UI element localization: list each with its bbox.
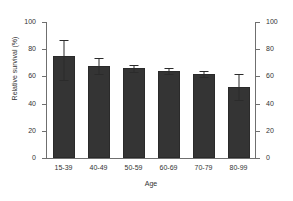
y-tick-label-right: 60 [266, 72, 274, 79]
error-cap-lower [199, 77, 208, 78]
error-cap-upper [129, 65, 138, 66]
bar-group [117, 22, 151, 158]
error-cap-lower [129, 72, 138, 73]
bar-group [47, 22, 81, 158]
y-tick-label-right: 80 [266, 45, 274, 52]
bar [88, 66, 110, 158]
y-tick-left: 20 [42, 131, 46, 132]
error-bar [133, 65, 134, 72]
bar [193, 74, 215, 158]
y-tick-label-left: 20 [28, 127, 36, 134]
y-tick-right: 100 [256, 22, 260, 23]
error-cap-upper [164, 68, 173, 69]
y-tick-label-right: 100 [266, 18, 278, 25]
error-cap-upper [94, 58, 103, 59]
y-tick-left: 60 [42, 76, 46, 77]
y-tick-right: 0 [256, 158, 260, 159]
error-cap-lower [94, 74, 103, 75]
error-bar [63, 40, 64, 81]
x-axis-title: Age [46, 180, 256, 187]
error-cap-upper [199, 71, 208, 72]
bar-group [222, 22, 256, 158]
error-cap-lower [234, 100, 243, 101]
y-tick-label-right: 20 [266, 127, 274, 134]
error-cap-upper [59, 40, 68, 41]
bar [158, 71, 180, 158]
y-tick-left: 100 [42, 22, 46, 23]
y-tick-label-left: 40 [28, 100, 36, 107]
y-tick-label-right: 40 [266, 100, 274, 107]
y-tick-right: 20 [256, 131, 260, 132]
x-axis-line [46, 158, 256, 159]
error-cap-lower [164, 74, 173, 75]
y-axis-title: Relative survival (%) [10, 0, 20, 136]
bar-group [152, 22, 186, 158]
bar-group [187, 22, 221, 158]
x-tick-label: 80-99 [211, 164, 267, 172]
plot-area: 020406080100 020406080100 15-3940-4950-5… [46, 22, 256, 158]
error-bar [98, 58, 99, 74]
error-bar [238, 74, 239, 101]
error-cap-lower [59, 80, 68, 81]
y-tick-label-right: 0 [266, 154, 270, 161]
relative-survival-bar-chart: Relative survival (%) 020406080100 02040… [0, 0, 293, 201]
y-tick-right: 80 [256, 49, 260, 50]
y-tick-left: 0 [42, 158, 46, 159]
y-tick-label-left: 80 [28, 45, 36, 52]
bar-group [82, 22, 116, 158]
y-tick-label-left: 0 [32, 154, 36, 161]
y-tick-left: 80 [42, 49, 46, 50]
y-tick-right: 60 [256, 76, 260, 77]
y-tick-left: 40 [42, 104, 46, 105]
y-tick-label-left: 100 [24, 18, 36, 25]
y-tick-right: 40 [256, 104, 260, 105]
bar [123, 68, 145, 158]
error-cap-upper [234, 74, 243, 75]
y-tick-label-left: 60 [28, 72, 36, 79]
